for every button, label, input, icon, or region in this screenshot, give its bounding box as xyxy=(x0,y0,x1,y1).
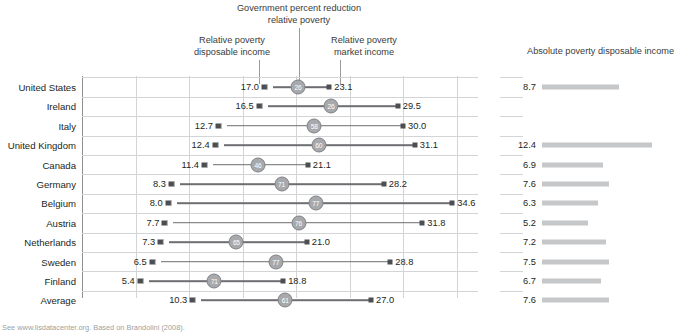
gridline-x-35 xyxy=(457,76,458,298)
value-label-disposable: 7.3 xyxy=(142,237,155,247)
bubble-government-reduction: 77 xyxy=(268,254,283,269)
value-label-absolute-poverty: 7.2 xyxy=(508,237,536,247)
category-label-belgium: Belgium xyxy=(41,198,76,209)
value-label-disposable: 5.4 xyxy=(122,276,135,286)
value-label-disposable: 11.4 xyxy=(182,160,199,170)
right-panel-row-gridline xyxy=(500,77,523,78)
category-label-canada: Canada xyxy=(42,159,76,170)
value-label-disposable: 10.3 xyxy=(169,295,187,305)
marker-relative-poverty-disposable xyxy=(137,279,142,284)
value-label-disposable: 8.3 xyxy=(153,179,166,189)
marker-relative-poverty-disposable xyxy=(162,220,167,225)
marker-relative-poverty-disposable xyxy=(168,182,173,187)
category-label-column: United StatesIrelandItalyUnited KingdomC… xyxy=(0,0,76,334)
right-panel-row-gridline xyxy=(500,116,523,117)
right-panel-row-gridline xyxy=(500,271,523,272)
value-label-market: 34.6 xyxy=(457,198,475,208)
bubble-government-reduction: 76 xyxy=(291,215,306,230)
right-panel-row-gridline xyxy=(500,136,523,137)
main-plot-area: 0510152025303517.023.12616.529.52612.730… xyxy=(82,76,478,298)
gridline-x-25 xyxy=(350,76,351,298)
category-label-italy: Italy xyxy=(58,120,76,131)
row-gridline xyxy=(82,116,478,117)
marker-relative-poverty-disposable xyxy=(256,104,261,109)
marker-relative-poverty-disposable xyxy=(190,298,195,303)
row-gridline xyxy=(82,291,478,292)
marker-relative-poverty-market xyxy=(368,298,373,303)
marker-relative-poverty-disposable xyxy=(149,259,154,264)
gridline-x-10 xyxy=(189,76,190,298)
marker-relative-poverty-disposable xyxy=(165,201,170,206)
bar-absolute-poverty xyxy=(542,85,619,90)
right-panel-row-gridline xyxy=(500,174,523,175)
bubble-government-reduction: 77 xyxy=(308,196,323,211)
value-label-disposable: 16.5 xyxy=(235,101,253,111)
category-label-finland: Finland xyxy=(45,276,76,287)
bar-absolute-poverty xyxy=(542,240,606,245)
bar-absolute-poverty xyxy=(542,162,603,167)
marker-relative-poverty-market xyxy=(305,162,310,167)
marker-relative-poverty-disposable xyxy=(158,240,163,245)
bubble-government-reduction: 26 xyxy=(323,99,338,114)
value-label-market: 27.0 xyxy=(376,295,394,305)
row-gridline xyxy=(82,194,478,195)
right-panel-row-gridline xyxy=(500,155,523,156)
value-label-absolute-poverty: 7.6 xyxy=(508,295,536,305)
value-label-absolute-poverty: 8.7 xyxy=(508,82,536,92)
category-label-austria: Austria xyxy=(46,217,76,228)
callout-relative-disposable: Relative poverty disposable income xyxy=(170,35,294,58)
value-label-market: 31.8 xyxy=(427,218,445,228)
bubble-government-reduction: 58 xyxy=(307,118,322,133)
value-label-market: 29.5 xyxy=(403,101,421,111)
marker-relative-poverty-market xyxy=(412,143,417,148)
marker-relative-poverty-market xyxy=(450,201,455,206)
value-label-disposable: 12.7 xyxy=(195,121,213,131)
bubble-government-reduction: 65 xyxy=(229,235,244,250)
marker-relative-poverty-market xyxy=(420,220,425,225)
value-label-disposable: 6.5 xyxy=(134,257,147,267)
bar-absolute-poverty xyxy=(542,279,601,284)
row-gridline xyxy=(82,97,478,98)
right-panel-row-gridline xyxy=(500,233,523,234)
value-label-absolute-poverty: 7.6 xyxy=(508,179,536,189)
value-label-market: 23.1 xyxy=(334,82,352,92)
marker-relative-poverty-market xyxy=(304,240,309,245)
bar-absolute-poverty xyxy=(542,259,609,264)
marker-relative-poverty-market xyxy=(401,123,406,128)
value-label-market: 21.0 xyxy=(312,237,330,247)
category-label-netherlands: Netherlands xyxy=(24,237,76,248)
row-gridline xyxy=(82,174,478,175)
marker-relative-poverty-market xyxy=(395,104,400,109)
value-label-market: 18.8 xyxy=(288,276,306,286)
right-panel-row-gridline xyxy=(500,291,523,292)
category-label-ireland: Ireland xyxy=(47,101,76,112)
value-label-disposable: 12.4 xyxy=(192,140,210,150)
row-gridline xyxy=(82,213,478,214)
value-label-absolute-poverty: 6.3 xyxy=(508,198,536,208)
right-panel-row-gridline xyxy=(500,194,523,195)
value-label-market: 21.1 xyxy=(313,160,331,170)
value-label-market: 31.1 xyxy=(420,140,438,150)
bar-absolute-poverty xyxy=(542,201,598,206)
marker-relative-poverty-disposable xyxy=(212,143,217,148)
right-panel-title: Absolute poverty disposable income xyxy=(527,46,674,57)
bar-absolute-poverty xyxy=(542,220,588,225)
row-gridline xyxy=(82,77,478,78)
value-label-absolute-poverty: 6.9 xyxy=(508,160,536,170)
bar-absolute-poverty xyxy=(542,182,609,187)
row-gridline xyxy=(82,252,478,253)
chart-page: Government percent reduction relative po… xyxy=(0,0,676,334)
marker-relative-poverty-market xyxy=(388,259,393,264)
row-gridline xyxy=(82,271,478,272)
value-label-absolute-poverty: 7.5 xyxy=(508,257,536,267)
value-label-absolute-poverty: 6.7 xyxy=(508,276,536,286)
value-label-absolute-poverty: 5.2 xyxy=(508,218,536,228)
bubble-government-reduction: 71 xyxy=(207,274,222,289)
value-label-market: 28.2 xyxy=(389,179,407,189)
bubble-government-reduction: 26 xyxy=(290,80,305,95)
right-panel-row-gridline xyxy=(500,97,523,98)
category-label-germany: Germany xyxy=(37,179,76,190)
value-label-disposable: 8.0 xyxy=(150,198,163,208)
row-gridline xyxy=(82,233,478,234)
bar-absolute-poverty xyxy=(542,143,652,148)
